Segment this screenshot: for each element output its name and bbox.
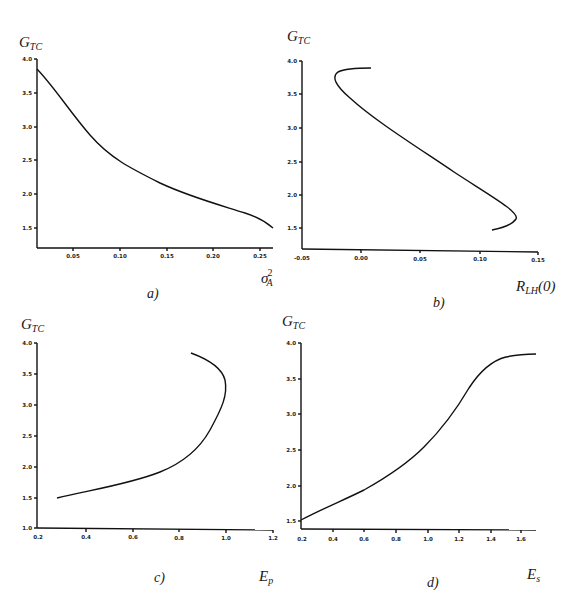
svg-text:0.2: 0.2 — [33, 534, 43, 540]
svg-text:1.2: 1.2 — [268, 535, 278, 541]
svg-text:3.5: 3.5 — [286, 376, 296, 382]
svg-text:4.0: 4.0 — [286, 340, 296, 346]
x-axis-label-d: Es — [527, 566, 540, 584]
svg-text:2.5: 2.5 — [286, 447, 296, 453]
svg-text:3.0: 3.0 — [22, 124, 32, 130]
svg-text:3.5: 3.5 — [22, 371, 32, 377]
svg-text:0.15: 0.15 — [160, 253, 174, 259]
svg-text:2.0: 2.0 — [22, 464, 32, 470]
svg-text:1.5: 1.5 — [22, 225, 32, 231]
svg-text:2.5: 2.5 — [287, 159, 297, 165]
svg-text:0.6: 0.6 — [128, 534, 138, 540]
svg-text:0.20: 0.20 — [206, 253, 220, 259]
svg-text:2.5: 2.5 — [22, 433, 32, 439]
plot-b: 4.03.53.0 2.52.01.5 -0.050.000.05 0.100.… — [284, 0, 568, 300]
svg-text:3.0: 3.0 — [286, 411, 296, 417]
svg-text:0.15: 0.15 — [531, 257, 545, 263]
svg-text:2.0: 2.0 — [287, 192, 297, 198]
svg-text:1.0: 1.0 — [423, 536, 433, 542]
svg-text:1.2: 1.2 — [454, 536, 464, 542]
svg-text:0.4: 0.4 — [328, 536, 338, 542]
svg-text:0.10: 0.10 — [473, 256, 487, 262]
svg-text:0.00: 0.00 — [354, 255, 368, 261]
caption-d: d) — [427, 575, 439, 591]
svg-text:2.5: 2.5 — [22, 157, 32, 163]
svg-text:1.4: 1.4 — [486, 536, 496, 542]
svg-text:1.0: 1.0 — [221, 535, 231, 541]
svg-text:0.05: 0.05 — [413, 256, 427, 262]
plot-a: 4.03.53.0 2.52.01.5 0.050.100.15 0.200.2… — [0, 0, 284, 300]
chart-panel-c: GTC 4.03.53.0 2.52.01.51.0 0.20.40.6 0.8… — [0, 300, 284, 599]
caption-c: c) — [154, 570, 165, 586]
svg-text:4.0: 4.0 — [22, 56, 32, 62]
svg-text:0.2: 0.2 — [297, 536, 307, 542]
svg-text:3.0: 3.0 — [287, 125, 297, 131]
svg-text:0.25: 0.25 — [253, 253, 267, 259]
svg-text:0.4: 0.4 — [81, 534, 91, 540]
svg-text:2.0: 2.0 — [286, 483, 296, 489]
svg-text:4.0: 4.0 — [287, 58, 297, 64]
svg-text:2.0: 2.0 — [22, 191, 32, 197]
svg-text:1.5: 1.5 — [286, 518, 296, 524]
x-axis-label-c: Ep — [259, 568, 273, 586]
svg-text:1.5: 1.5 — [287, 225, 297, 231]
svg-text:0.8: 0.8 — [174, 535, 184, 541]
plot-c: 4.03.53.0 2.52.01.51.0 0.20.40.6 0.81.01… — [0, 300, 284, 599]
chart-panel-b: GTC 4.03.53.0 2.52.01.5 -0.050.000.05 0.… — [284, 0, 568, 300]
svg-text:0.05: 0.05 — [66, 253, 80, 259]
svg-text:4.0: 4.0 — [22, 340, 32, 346]
svg-text:0.6: 0.6 — [359, 536, 369, 542]
chart-panel-a: GTC 4.03.53.0 2.52.01.5 0.050.100.15 0.2… — [0, 0, 284, 300]
svg-text:-0.05: -0.05 — [294, 255, 310, 261]
chart-panel-d: GTC 4.03.53.0 2.52.01.5 0.20.40.6 0.81 — [284, 300, 568, 599]
svg-text:3.0: 3.0 — [22, 402, 32, 408]
svg-text:0.10: 0.10 — [113, 253, 127, 259]
plot-d: 4.03.53.0 2.52.01.5 0.20.40.6 0.81.01.2 … — [284, 300, 568, 599]
svg-text:0.8: 0.8 — [391, 536, 401, 542]
svg-text:1.0: 1.0 — [22, 525, 32, 531]
svg-text:1.5: 1.5 — [22, 495, 32, 501]
svg-text:3.5: 3.5 — [287, 91, 297, 97]
x-axis-label-a: σ2A — [261, 267, 273, 288]
svg-text:3.5: 3.5 — [22, 90, 32, 96]
x-axis-label-b: RLH(0) — [516, 278, 555, 296]
svg-text:1.6: 1.6 — [516, 536, 526, 542]
